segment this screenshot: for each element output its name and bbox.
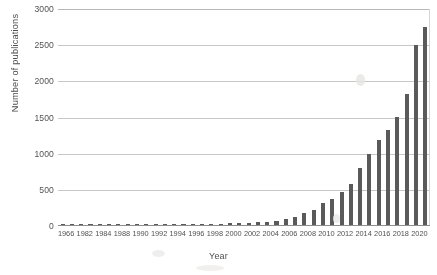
bar (340, 192, 344, 225)
bar (321, 203, 325, 225)
x-tick-slot: 1984 (95, 229, 111, 243)
x-tick-slot: 2016 (374, 229, 390, 243)
x-tick-slot: 2018 (393, 229, 409, 243)
bar-slot (300, 9, 309, 225)
x-axis-tick-labels: 1966198219841988199019921994199619982000… (58, 229, 430, 243)
bar-slot (225, 9, 234, 225)
bar-slot (67, 9, 76, 225)
scan-artifact (196, 265, 224, 271)
bar-slot (309, 9, 318, 225)
bar-chart: Number of publications 05001000150020002… (0, 0, 437, 275)
bar-slot (253, 9, 262, 225)
x-axis-tick-label: 2020 (411, 229, 427, 238)
bar (358, 168, 362, 225)
x-tick-slot: 2000 (225, 229, 241, 243)
x-tick-slot: 2012 (337, 229, 353, 243)
y-axis-tick-label: 500 (39, 185, 54, 195)
bar-slot (411, 9, 420, 225)
x-tick-slot: 2004 (263, 229, 279, 243)
x-axis-tick-label: 2008 (300, 229, 316, 238)
plot-area (58, 9, 430, 226)
bar-slot (95, 9, 104, 225)
bar-series (58, 9, 430, 225)
bar (414, 45, 418, 225)
x-tick-slot: 1994 (170, 229, 186, 243)
bar-slot (337, 9, 346, 225)
x-axis-tick-label: 1994 (170, 229, 186, 238)
x-tick-slot: 1998 (207, 229, 223, 243)
bar-slot (170, 9, 179, 225)
bar (312, 210, 316, 225)
bar (349, 184, 353, 225)
y-axis-tick-label: 1500 (34, 113, 54, 123)
x-axis-tick-label: 2016 (374, 229, 390, 238)
y-axis-tick-label: 2500 (34, 40, 54, 50)
y-axis-tick-label: 3000 (34, 4, 54, 14)
x-tick-slot: 2014 (356, 229, 372, 243)
bar-slot (188, 9, 197, 225)
bar (405, 94, 409, 225)
bar-slot (197, 9, 206, 225)
bar-slot (216, 9, 225, 225)
x-tick-slot: 1988 (114, 229, 130, 243)
x-axis-tick-label: 1984 (95, 229, 111, 238)
bar (367, 154, 371, 225)
bar-slot (86, 9, 95, 225)
bar-slot (263, 9, 272, 225)
x-tick-slot: 2006 (281, 229, 297, 243)
y-axis-tick-label: 0 (49, 221, 54, 231)
bar (377, 140, 381, 225)
bar-slot (179, 9, 188, 225)
x-axis-tick-label: 2006 (281, 229, 297, 238)
x-axis-tick-label: 1998 (207, 229, 223, 238)
bar-slot (207, 9, 216, 225)
x-axis-tick-label: 2014 (356, 229, 372, 238)
x-tick-slot: 2008 (300, 229, 316, 243)
x-axis-tick-label: 1992 (151, 229, 167, 238)
x-axis-tick-label: 1990 (132, 229, 148, 238)
x-axis-line (58, 225, 430, 226)
bar (302, 213, 306, 225)
bar-slot (142, 9, 151, 225)
bar-slot (151, 9, 160, 225)
x-axis-title: Year (0, 251, 437, 261)
bar-slot (374, 9, 383, 225)
bar-slot (104, 9, 113, 225)
y-axis-title: Number of publications (10, 0, 20, 148)
x-axis-tick-label: 1982 (77, 229, 93, 238)
bar-slot (77, 9, 86, 225)
x-tick-slot: 1982 (77, 229, 93, 243)
x-tick-slot: 2020 (411, 229, 427, 243)
bar-slot (328, 9, 337, 225)
y-axis-tick-labels: 050010001500200025003000 (26, 0, 54, 232)
bar (423, 27, 427, 225)
bar-slot (58, 9, 67, 225)
bar (330, 199, 334, 225)
x-axis-tick-label: 2004 (263, 229, 279, 238)
bar-slot (346, 9, 355, 225)
bar-slot (393, 9, 402, 225)
x-axis-tick-label: 1996 (188, 229, 204, 238)
x-tick-slot: 2010 (318, 229, 334, 243)
x-tick-slot: 1966 (58, 229, 74, 243)
bar-slot (132, 9, 141, 225)
bar-slot (272, 9, 281, 225)
bar-slot (365, 9, 374, 225)
bar-slot (402, 9, 411, 225)
y-axis-tick-label: 2000 (34, 76, 54, 86)
bar-slot (356, 9, 365, 225)
bar-slot (114, 9, 123, 225)
bar (386, 130, 390, 225)
x-tick-slot: 1996 (188, 229, 204, 243)
x-axis-tick-label: 2018 (393, 229, 409, 238)
x-axis-tick-label: 1966 (58, 229, 74, 238)
bar-slot (383, 9, 392, 225)
x-axis-tick-label: 2010 (318, 229, 334, 238)
bar-slot (235, 9, 244, 225)
x-tick-slot: 1990 (132, 229, 148, 243)
bar-slot (290, 9, 299, 225)
x-tick-slot: 1992 (151, 229, 167, 243)
bar-slot (123, 9, 132, 225)
x-axis-tick-label: 2012 (337, 229, 353, 238)
x-axis-tick-label: 2002 (244, 229, 260, 238)
